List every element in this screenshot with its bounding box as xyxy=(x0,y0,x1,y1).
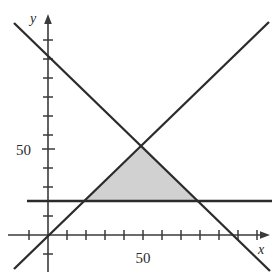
y-axis-arrowhead xyxy=(44,14,52,24)
y-axis-label: y xyxy=(28,11,37,26)
x-tick-label-50: 50 xyxy=(136,250,151,266)
falling-line xyxy=(14,23,270,271)
coordinate-plane-svg: y x 50 50 xyxy=(0,0,279,278)
graph-figure: y x 50 50 xyxy=(0,0,279,278)
shaded-feasible-region xyxy=(85,146,198,201)
x-axis-label: x xyxy=(257,242,265,257)
y-tick-label-50: 50 xyxy=(16,142,31,158)
x-axis-arrowhead xyxy=(260,231,270,239)
